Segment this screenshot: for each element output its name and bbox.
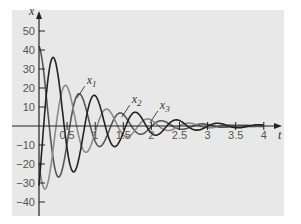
- y-tick-label: −10: [16, 139, 35, 151]
- x-tick-label: 1: [92, 129, 98, 141]
- y-tick-label: −30: [16, 177, 35, 189]
- y-tick-label: 20: [23, 82, 35, 94]
- y-tick-label: 30: [23, 63, 35, 75]
- x-tick-label: 0.5: [59, 129, 74, 141]
- y-tick-label: −20: [16, 158, 35, 170]
- x-tick-label: 3: [205, 129, 211, 141]
- x-tick-label: 1.5: [116, 129, 131, 141]
- y-tick-label: 50: [23, 25, 35, 37]
- chart: 0.511.522.533.54 5040302010−10−20−30−40 …: [0, 0, 301, 224]
- x-tick-label: 3.5: [228, 129, 243, 141]
- y-tick-label: 10: [23, 101, 35, 113]
- x-tick-label: 2: [148, 129, 154, 141]
- y-tick-label: 40: [23, 44, 35, 56]
- y-tick-label: −40: [16, 196, 35, 208]
- plot-background: [12, 10, 284, 216]
- x-tick-label: 2.5: [172, 129, 187, 141]
- x-tick-label: 4: [261, 129, 267, 141]
- y-axis-label: x: [28, 4, 35, 18]
